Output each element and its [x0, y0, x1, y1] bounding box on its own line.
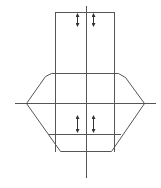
chamfered-body-outline	[27, 74, 145, 152]
upper-rectangle	[56, 13, 115, 74]
diagram-shapes	[15, 6, 156, 178]
diagram-canvas	[0, 0, 161, 188]
